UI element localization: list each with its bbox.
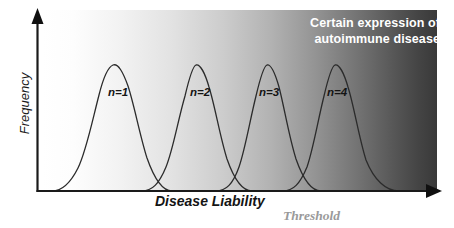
chart-title: Certain expression of autoimmune disease (230, 15, 440, 48)
y-axis-arrowhead (32, 8, 44, 24)
chart-title-line-1: Certain expression of (310, 16, 440, 30)
curve-label-n2: n=2 (190, 86, 210, 98)
curve-n4 (283, 65, 399, 191)
liability-threshold-figure: Certain expression of autoimmune disease… (0, 0, 454, 228)
curve-n1 (52, 65, 172, 191)
distribution-curves (52, 65, 399, 191)
threshold-label: Threshold (283, 208, 340, 224)
curve-label-n4: n=4 (327, 86, 347, 98)
x-axis-arrowhead (426, 184, 442, 198)
x-axis-label: Disease Liability (155, 193, 265, 209)
curve-label-n3: n=3 (259, 86, 279, 98)
curve-n2 (142, 65, 252, 191)
curve-label-n1: n=1 (108, 86, 128, 98)
y-axis-label: Frequency (17, 59, 32, 149)
chart-title-line-2: autoimmune disease (315, 32, 440, 46)
